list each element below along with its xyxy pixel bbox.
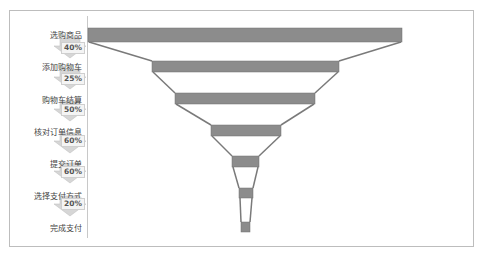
funnel-bar-4 [232,156,259,167]
conversion-rate-5: 20% [61,198,85,210]
conversion-rate-1: 25% [61,73,85,85]
funnel-bar-3 [211,125,281,136]
funnel-bar-6 [241,222,250,232]
funnel-bar-1 [152,61,339,72]
category-label-6: 完成支付 [50,222,82,233]
funnel-bar-0 [88,28,402,42]
funnel-bar-5 [239,188,253,198]
conversion-rate-4: 60% [61,166,85,178]
category-label-0: 选购商品 [50,29,82,40]
funnel-bar-2 [175,93,315,104]
conversion-rate-0: 40% [61,42,85,54]
conversion-rate-3: 60% [61,135,85,147]
category-label-1: 添加购物车 [42,61,82,72]
conversion-rate-2: 50% [61,104,85,116]
